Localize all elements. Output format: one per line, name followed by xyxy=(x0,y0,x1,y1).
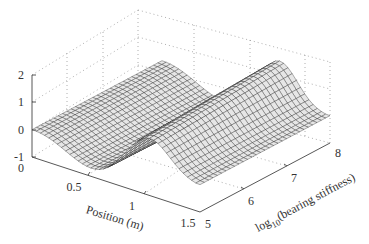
z-tick-labels: 2 1 0 -1 xyxy=(14,68,24,164)
svg-text:0: 0 xyxy=(18,161,24,175)
svg-text:7: 7 xyxy=(291,171,297,185)
surface-mesh xyxy=(32,61,330,185)
svg-text:1.5: 1.5 xyxy=(181,216,196,230)
y-axis-label: log10(bearing stiffness) xyxy=(253,170,359,237)
svg-text:8: 8 xyxy=(335,146,341,160)
x-axis xyxy=(32,157,200,212)
svg-text:1: 1 xyxy=(18,95,24,109)
surface-chart: 2 1 0 -1 0 0.5 1 1.5 5 6 7 8 Position (m… xyxy=(0,0,369,244)
svg-text:0.5: 0.5 xyxy=(67,180,82,194)
x-axis-label: Position (m) xyxy=(84,202,145,233)
svg-text:2: 2 xyxy=(18,68,24,82)
svg-text:0: 0 xyxy=(18,123,24,137)
svg-text:1: 1 xyxy=(129,199,135,213)
svg-text:6: 6 xyxy=(248,194,254,208)
svg-text:5: 5 xyxy=(205,217,211,231)
